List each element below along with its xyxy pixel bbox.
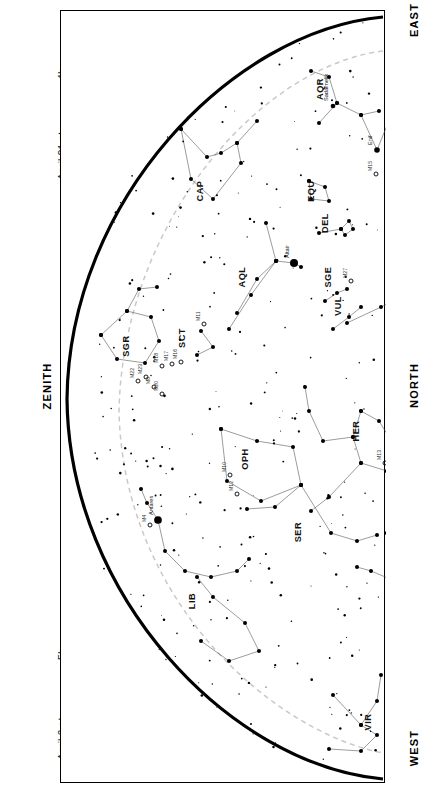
star-point [161, 615, 162, 616]
star-point [346, 586, 347, 587]
star-point [167, 136, 168, 137]
star-point [223, 263, 225, 265]
constellation-line [158, 520, 249, 577]
star-point [101, 376, 102, 377]
star-point [263, 344, 265, 346]
star-point [296, 413, 297, 414]
star-point [355, 448, 356, 449]
constellation-label-oph: OPH [240, 448, 250, 470]
star-point [143, 594, 145, 596]
constellation-label-aqr: AQR [315, 78, 325, 100]
star-point [284, 327, 286, 329]
star-point [296, 149, 297, 150]
star-point [303, 385, 307, 389]
star-point [244, 565, 246, 567]
star-point [345, 287, 349, 291]
constellation-line [337, 103, 379, 115]
star-point [307, 409, 311, 413]
star-point [99, 344, 100, 345]
star-point [163, 618, 166, 621]
star-point [153, 457, 155, 459]
star-point [273, 442, 275, 444]
star-point [327, 199, 331, 203]
star-point [250, 723, 252, 725]
star-point [339, 727, 341, 729]
star-point [337, 608, 339, 610]
star-point [189, 496, 190, 497]
star-point [147, 466, 149, 468]
star-point [239, 331, 241, 333]
star-point [202, 235, 204, 237]
messier-label-m16: M16 [172, 349, 178, 359]
star-point [155, 494, 157, 496]
star-point [349, 709, 351, 711]
constellation-label-her: HER [351, 420, 361, 441]
star-point [157, 339, 161, 343]
star-point [219, 427, 223, 431]
constellation-label-cap: CAP [195, 180, 205, 201]
star-point [125, 309, 129, 313]
star-point [234, 111, 235, 112]
star-point [199, 501, 201, 503]
constellation-label-vir: VIR [363, 713, 373, 730]
messier-label-m18: M18 [153, 353, 159, 363]
star-point [344, 614, 346, 616]
star-point [198, 682, 199, 683]
star-point [280, 430, 281, 431]
star-point [129, 282, 132, 285]
star-point [94, 452, 96, 454]
constellation-label-aql: AQL [237, 266, 247, 287]
star-point [220, 180, 222, 182]
star-point [331, 523, 332, 524]
star-point [168, 278, 170, 280]
star-point [149, 315, 153, 319]
star-point [159, 649, 160, 650]
star-point [371, 315, 372, 316]
star-point [137, 504, 138, 505]
compass-label-north: NORTH [408, 364, 420, 408]
star-point [261, 102, 263, 104]
star-point [117, 513, 119, 515]
star-point [163, 309, 165, 311]
messier-label-m20: M20 [153, 381, 159, 391]
compass-label-zenith: ZENITH [41, 361, 53, 411]
constellation-label-sge: SGE [323, 266, 333, 287]
messier-marker-m22 [136, 379, 140, 383]
star-point [335, 573, 337, 575]
star-point [257, 649, 261, 653]
star-labels-group: SadalmelikMarkabEnifAltairDenebVegaArctu… [148, 73, 386, 579]
star-point [332, 294, 334, 296]
star-point [172, 177, 175, 180]
star-point [253, 536, 255, 538]
star-point [119, 319, 121, 321]
star-point [227, 659, 231, 663]
star-point [120, 202, 121, 203]
star-point [346, 637, 347, 638]
star-point [238, 693, 240, 695]
messier-label-m10: M10 [221, 462, 227, 472]
constellation-line [197, 577, 259, 661]
star-point [379, 673, 383, 677]
star-point [359, 749, 363, 753]
star-point [235, 141, 239, 145]
star-point [375, 733, 379, 737]
star-point [163, 549, 167, 553]
star-point [252, 733, 253, 734]
star-point [323, 299, 327, 303]
star-point [351, 227, 355, 231]
star-point [102, 416, 104, 418]
star-point [352, 76, 353, 77]
star-point [361, 138, 363, 140]
star-point [366, 583, 367, 584]
star-label-enif: Enif [367, 135, 373, 145]
star-point [342, 514, 344, 516]
star-point [377, 229, 378, 230]
star-point [231, 350, 233, 352]
star-point [195, 119, 196, 120]
star-point [198, 351, 200, 353]
star-point [100, 391, 103, 394]
star-point [143, 296, 144, 297]
star-point [209, 575, 213, 579]
star-point [291, 445, 295, 449]
star-point [327, 495, 331, 499]
